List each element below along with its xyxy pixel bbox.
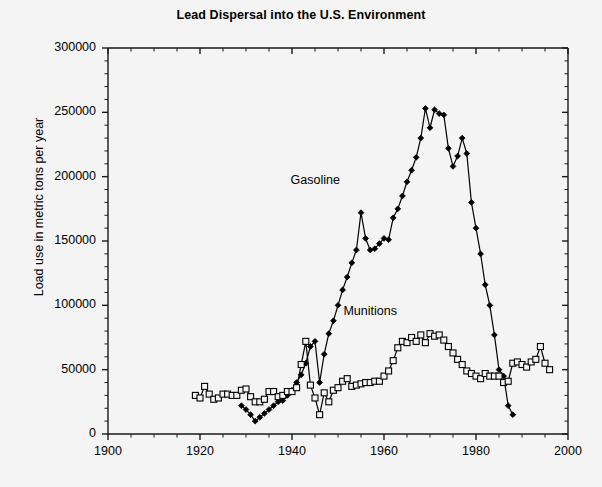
x-tick-label: 1940 [262,445,322,457]
x-tick-label: 1900 [78,445,138,457]
y-tick-label: 250000 [24,105,96,117]
y-tick-label: 300000 [24,41,96,53]
y-tick-label: 0 [24,427,96,439]
x-tick-label: 2000 [538,445,598,457]
x-tick-label: 1980 [446,445,506,457]
y-tick-label: 150000 [24,234,96,246]
y-tick-label: 50000 [24,363,96,375]
annotation-munitions: Munitions [343,304,397,318]
data-series [192,106,552,424]
x-tick-label: 1920 [170,445,230,457]
y-tick-label: 100000 [24,298,96,310]
annotation-gasoline: Gasoline [291,173,340,187]
series-munitions [192,331,552,418]
y-tick-label: 200000 [24,170,96,182]
chart-figure: Lead Dispersal into the U.S. Environment… [0,0,602,487]
axes [102,48,568,440]
x-tick-label: 1960 [354,445,414,457]
